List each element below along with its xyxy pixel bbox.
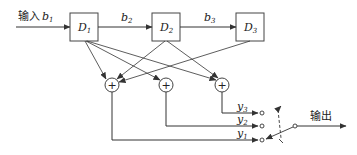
output-y3-label: y3 bbox=[236, 100, 248, 114]
tap-connections bbox=[85, 41, 250, 82]
input-label: 输入 b1 bbox=[18, 9, 54, 24]
output-label: 输出 bbox=[310, 109, 332, 123]
adder-2: + bbox=[159, 78, 173, 92]
register-d2: D2 bbox=[152, 13, 180, 41]
commutator-switch bbox=[266, 106, 293, 143]
adder-3: + bbox=[215, 78, 229, 92]
svg-text:输入: 输入 bbox=[18, 9, 40, 23]
output-y2-label: y2 bbox=[236, 113, 248, 127]
link-b2-label: b2 bbox=[121, 11, 133, 25]
svg-text:+: + bbox=[107, 79, 116, 92]
link-b3-label: b3 bbox=[204, 11, 216, 25]
svg-text:b1: b1 bbox=[42, 10, 54, 24]
svg-text:+: + bbox=[217, 79, 226, 92]
svg-text:+: + bbox=[161, 79, 170, 92]
convolutional-encoder-diagram: 输入 b1 D1 D2 D3 b2 b3 + + + bbox=[0, 0, 357, 155]
output-y1-label: y1 bbox=[236, 127, 248, 141]
register-d3: D3 bbox=[236, 13, 264, 41]
register-d1: D1 bbox=[70, 13, 98, 41]
adder-1: + bbox=[105, 78, 119, 92]
